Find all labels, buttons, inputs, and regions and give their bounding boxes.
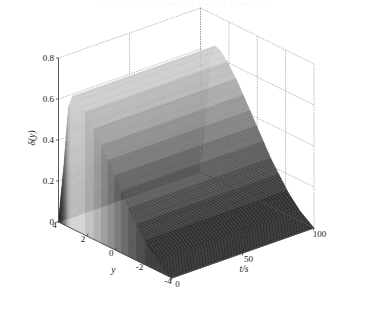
x-tick-label: 100	[313, 229, 327, 239]
z-tick-label: 0.4	[43, 135, 55, 145]
y-axis-label: y	[110, 265, 116, 275]
z-tick-label: 0.6	[43, 94, 55, 104]
cropped-header-text: · · · · · · ·· · ·· ·· · · ·· ·· ·· ·· ·…	[0, 0, 372, 7]
y-tick-label: -4	[164, 276, 172, 286]
y-tick-label: 0	[109, 248, 114, 258]
x-axis-label: t/s	[240, 264, 249, 274]
y-tick-label: -2	[136, 262, 144, 272]
z-axis-label: δ(y)	[27, 130, 38, 145]
x-tick-label: 50	[244, 254, 254, 264]
y-tick-label: 2	[81, 234, 86, 244]
surface-mesh	[59, 46, 315, 278]
y-tick-label: 4	[52, 220, 57, 230]
figure-3d-surface-plot: · · · · · · ·· · ·· ·· · · ·· ·· ·· ·· ·…	[0, 0, 372, 311]
plot-canvas: 00.20.40.60.8420-2-4050100δ(y)yt/s	[0, 0, 372, 311]
z-tick-label: 0.8	[43, 53, 55, 63]
x-tick-label: 0	[175, 279, 180, 289]
z-tick-label: 0.2	[43, 176, 54, 186]
